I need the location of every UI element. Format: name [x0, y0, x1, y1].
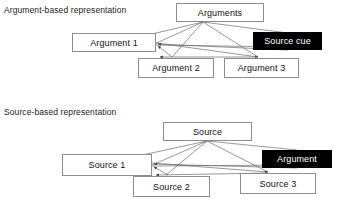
edge-hub-n1b — [152, 22, 203, 45]
edge-n2-n1 — [158, 46, 172, 57]
edge2-n2-n1 — [154, 167, 168, 175]
node-source-1[interactable]: Source 1 — [62, 154, 152, 176]
node-source[interactable]: Source — [163, 122, 252, 141]
node-argument-2[interactable]: Argument 2 — [138, 58, 214, 78]
node-argument-1[interactable]: Argument 1 — [72, 33, 156, 52]
node-argument-highlight[interactable]: Argument — [262, 150, 332, 168]
edge2-hub-n2 — [166, 141, 207, 175]
edge2-hub-cue — [207, 141, 297, 150]
edge-hub-n2 — [172, 22, 203, 57]
figure-canvas: Argument-based representation Arguments … — [0, 0, 346, 213]
edge2-n1-n3 — [152, 163, 268, 172]
edge-hub-n3 — [203, 22, 258, 57]
panel-2-caption: Source-based representation — [4, 107, 116, 117]
node-source-3[interactable]: Source 3 — [240, 173, 316, 194]
edge2-hub-n1b — [150, 141, 207, 166]
node-source-2[interactable]: Source 2 — [133, 176, 210, 197]
edge2-hub-n3 — [207, 141, 268, 172]
edge-n1-n3 — [156, 43, 258, 57]
node-source-cue[interactable]: Source cue — [253, 32, 322, 50]
node-arguments[interactable]: Arguments — [176, 3, 264, 22]
node-argument-3[interactable]: Argument 3 — [224, 58, 299, 78]
cropped-text-sliver — [0, 207, 346, 213]
panel-1-caption: Argument-based representation — [4, 5, 126, 15]
